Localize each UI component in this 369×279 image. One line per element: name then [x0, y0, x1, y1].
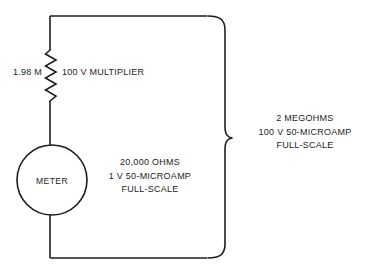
meter-label: METER — [36, 175, 68, 189]
total-specs-label: 2 MEGOHMS 100 V 50-MICROAMP FULL-SCALE — [259, 112, 352, 153]
meter-specs-label: 20,000 OHMS 1 V 50-MICROAMP FULL-SCALE — [109, 156, 191, 197]
meter-specs-line-3: FULL-SCALE — [109, 183, 191, 197]
meter-specs-line-1: 20,000 OHMS — [109, 156, 191, 170]
meter-specs-line-2: 1 V 50-MICROAMP — [109, 170, 191, 184]
resistor-value-label: 1.98 M — [13, 66, 42, 80]
total-specs-line-2: 100 V 50-MICROAMP — [259, 126, 352, 140]
total-specs-line-1: 2 MEGOHMS — [259, 112, 352, 126]
curly-brace-icon — [208, 16, 232, 258]
circuit-diagram-canvas: 1.98 M 100 V MULTIPLIER METER 20,000 OHM… — [0, 0, 369, 279]
resistor-zigzag-icon — [46, 50, 57, 101]
total-specs-line-3: FULL-SCALE — [259, 139, 352, 153]
resistor-name-label: 100 V MULTIPLIER — [62, 66, 144, 80]
